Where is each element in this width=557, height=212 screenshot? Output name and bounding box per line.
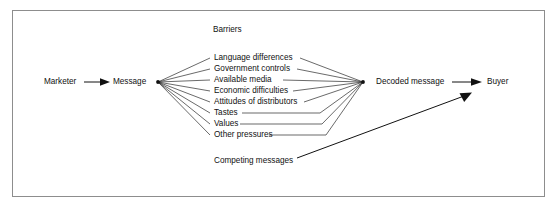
node-label-decoded-message: Decoded message	[376, 77, 445, 86]
barrier-item-6: Values	[214, 119, 238, 128]
barrier-item-1: Government controls	[214, 64, 290, 73]
barrier-item-2: Available media	[214, 75, 272, 84]
barrier-item-3: Economic difficulties	[214, 86, 288, 95]
barrier-item-5: Tastes	[214, 108, 238, 117]
arrow-marketer-to-message	[84, 78, 110, 86]
diagram-canvas: Marketer Message Barriers Language diffe…	[0, 0, 557, 212]
barrier-item-0: Language differences	[214, 53, 293, 62]
node-label-buyer: Buyer	[487, 77, 509, 86]
competing-messages-label: Competing messages	[214, 156, 293, 165]
barrier-fan-left	[156, 58, 210, 135]
node-label-message: Message	[113, 77, 147, 86]
barrier-item-7: Other pressures	[214, 130, 273, 139]
arrow-competing-to-buyer	[297, 93, 472, 159]
node-label-marketer: Marketer	[44, 77, 77, 86]
barrier-item-4: Attitudes of distributors	[214, 97, 297, 106]
barriers-heading: Barriers	[213, 25, 242, 34]
arrow-decoded-to-buyer	[452, 78, 482, 86]
communication-process-diagram: Marketer Message Barriers Language diffe…	[0, 0, 557, 212]
